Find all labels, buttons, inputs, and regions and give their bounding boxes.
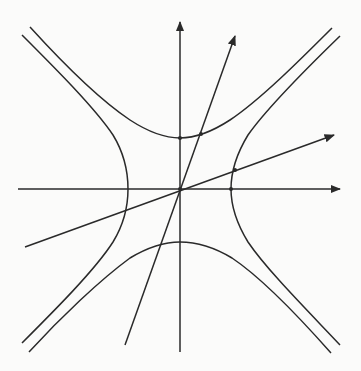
hyperbola-diagram bbox=[0, 0, 361, 371]
right-vertex-point bbox=[229, 187, 233, 191]
diagram-canvas bbox=[0, 0, 361, 371]
upper-hyperbola-branch bbox=[30, 27, 332, 138]
origin-point bbox=[178, 187, 182, 191]
shallow-intersection-point bbox=[233, 168, 237, 172]
upper-vertex-point bbox=[178, 136, 182, 140]
steep-intersection-point bbox=[199, 132, 203, 136]
right-hyperbola-branch bbox=[231, 36, 340, 345]
